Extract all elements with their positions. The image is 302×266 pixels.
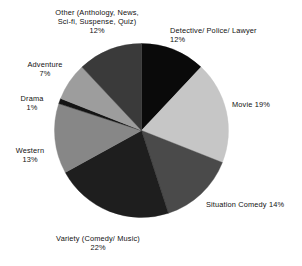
pie-label-other: Other (Anthology, News, Sci-fi, Suspense… (34, 8, 160, 36)
pie-label-adventure-value: 7% (12, 69, 78, 78)
pie-label-adventure: Adventure 7% (12, 60, 78, 78)
pie-label-other-line1: Other (Anthology, News, (34, 8, 160, 17)
pie-label-western-value: 13% (2, 155, 58, 164)
pie-label-situation-comedy: Situation Comedy 14% (206, 200, 302, 209)
pie-label-drama-value: 1% (6, 103, 58, 112)
pie-label-western-line1: Western (2, 146, 58, 155)
pie-label-movie-line1: Movie 19% (232, 100, 300, 109)
pie-label-variety: Variety (Comedy/ Music) 22% (36, 234, 160, 252)
pie-label-adventure-line1: Adventure (12, 60, 78, 69)
pie-label-western: Western 13% (2, 146, 58, 164)
pie-label-sitcom-line1: Situation Comedy 14% (206, 200, 302, 209)
pie-label-variety-value: 22% (36, 243, 160, 252)
pie-slice-group (55, 44, 229, 218)
pie-label-other-line2: Sci-fi, Suspense, Quiz) (34, 17, 160, 26)
pie-label-detective-line1: Detective/ Police/ Lawyer (170, 26, 290, 35)
pie-label-other-value: 12% (34, 26, 160, 35)
pie-label-variety-line1: Variety (Comedy/ Music) (36, 234, 160, 243)
pie-label-movie: Movie 19% (232, 100, 300, 109)
pie-label-drama-line1: Drama (6, 94, 58, 103)
pie-label-drama: Drama 1% (6, 94, 58, 112)
pie-chart: Other (Anthology, News, Sci-fi, Suspense… (0, 0, 302, 266)
pie-label-detective-value: 12% (170, 35, 290, 44)
pie-label-detective-police-lawyer: Detective/ Police/ Lawyer 12% (170, 26, 290, 44)
